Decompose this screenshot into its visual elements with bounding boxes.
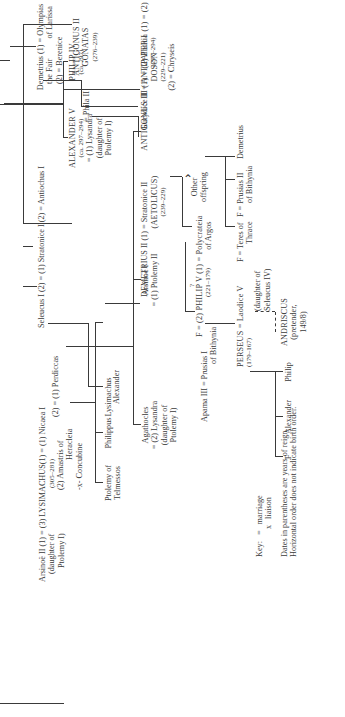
trunk-cassander-line [0, 104, 63, 105]
legend-liaison: liaison [264, 497, 273, 519]
name: F = (2) PHILIP V (1) = Polycrateia [195, 187, 204, 337]
connector [133, 132, 134, 280]
connector [0, 60, 10, 61]
dates: 149/8) [299, 292, 308, 352]
marriage-symbol: = [255, 530, 264, 535]
connector [170, 176, 182, 177]
connector [88, 323, 89, 360]
node-seleucus-stratonice-antiochus: Seleucus I (2) = (1) Stratonice I (2) = … [37, 107, 46, 387]
reign-dates: (276–239) [91, 2, 99, 92]
name: ANDRISCUS [280, 292, 289, 352]
connector [182, 226, 192, 227]
name: PHILIP IV [68, 32, 77, 92]
dashed-connector [275, 312, 276, 332]
epithet: (AETOLICUS) [150, 167, 159, 237]
connector [185, 311, 195, 312]
parent-note: (daughter of [160, 385, 169, 465]
name: Agathocles [141, 385, 150, 465]
legend-note-dates: Dates in parentheses are years of reign. [280, 357, 289, 557]
name: Arsinoë II (1) = (3) LYSIMACHUS(1) = (1)… [38, 382, 47, 582]
connector [23, 24, 72, 25]
node-andriscus: ANDRISCUS (pretender, 149/8) [280, 292, 308, 352]
connector [95, 482, 103, 483]
origin: Telmessos [113, 453, 122, 513]
connector [88, 357, 89, 387]
perdiccas-marriage: (2) = (1) Perdiccas [51, 356, 60, 417]
family-tree-diagram: Demetrius (1) = Olympias the Fair of Lar… [0, 0, 345, 717]
legend-label: Key: [255, 541, 264, 557]
spouse-phila-ii-label: = Phila II [82, 91, 91, 122]
node-apama: Apama III = Prusias I of Bithynia [200, 322, 219, 422]
spouse: = (2) Lysandra [150, 385, 159, 465]
connector [133, 424, 141, 425]
spouse: = (1) Ptolemy II [150, 240, 159, 320]
connector [133, 280, 134, 425]
node-demetrius-the-fair: Demetrius (1) = Olympias the Fair of Lar… [36, 2, 64, 92]
connector [0, 703, 64, 704]
name: Demetrius (1) = Olympias [36, 2, 45, 92]
node-teres: F = Teres of Thrace [236, 202, 255, 262]
connector [138, 116, 139, 137]
connector [225, 157, 226, 227]
connector [70, 402, 95, 403]
node-ptolemy-telmessos: Ptolemy of Telmessos [104, 453, 123, 513]
name: Apama III = Prusias I [200, 322, 209, 422]
connector [66, 346, 133, 347]
node-alexander-son: Alexander [112, 361, 121, 413]
node-antigonus-iii-name: ANTIGONUS III (1) = (2) Phthia (1) = (2) [140, 2, 149, 162]
reign-dates: (ca. 297) [77, 32, 85, 92]
node-demetrius-son: Demetrius [236, 122, 245, 162]
liaison-concubine: -x- Concubine [75, 370, 84, 490]
spouse-origin: Heracleia [65, 370, 74, 490]
name: PERSEUS = Laodice V [236, 257, 245, 367]
node-philip-v: F = (2) PHILIP V (1) = Polycrateia (221–… [195, 187, 214, 337]
connector [48, 323, 88, 324]
reign-dates: (239–229) [159, 167, 167, 237]
connector [105, 303, 140, 304]
connector [95, 432, 103, 433]
connector [205, 323, 235, 324]
origin: of Bithynia [209, 322, 218, 422]
spouse-chryseis: (2) = Chryseis [167, 22, 176, 112]
legend-block: Key: = marriage x liaison Dates in paren… [255, 357, 299, 557]
dashed-connector [255, 311, 275, 312]
connector [88, 386, 103, 387]
reign-dates: (221–179) [204, 268, 213, 297]
node-perseus: PERSEUS = Laodice V (179–167) (daughter … [236, 257, 272, 367]
origin: Thrace [245, 202, 254, 262]
parent-note: Seleucus IV) [263, 257, 272, 367]
bar-cassander-children [63, 62, 64, 138]
note: (pretender, [289, 292, 298, 352]
parent-note: Ptolemy I) [104, 100, 113, 176]
connector [92, 116, 138, 117]
connector [23, 223, 72, 224]
legend-marriage: marriage [255, 495, 264, 524]
connector [95, 322, 103, 323]
reign-dates: (179–167) [245, 257, 253, 367]
node-agathocles: Agathocles = (2) Lysandra (daughter of P… [141, 385, 179, 465]
name: F = Teres of [236, 202, 245, 262]
name: Ptolemy of [104, 453, 113, 513]
node-antigonus-iii-detail: DOSON (229–221) (2) = Chryseis [150, 22, 177, 112]
origin: of Larissa [45, 6, 54, 39]
node-philip-iv: PHILIP IV (ca. 297) [68, 32, 85, 92]
connector [23, 25, 24, 224]
connector [225, 226, 235, 227]
name: ALEXANDER V [68, 100, 77, 176]
legend-note-order: Horizontal order does not indicate birth… [289, 357, 298, 557]
question-mark: ? [188, 284, 196, 287]
connector [225, 179, 235, 180]
liaison-symbol: x [264, 525, 273, 529]
connector [185, 242, 186, 312]
connector [205, 156, 225, 157]
connector [95, 323, 96, 483]
parent-note: Ptolemy I) [169, 385, 178, 465]
origin: of Argos [204, 222, 213, 250]
parent-note: (daughter of [95, 100, 104, 176]
epithet: DOSON [150, 22, 159, 112]
name: ANTIGONUS III (1) = (2) Phthia (1) = (2) [140, 2, 149, 162]
node-demetrius-ii-detail: (AETOLICUS) (239–229) [150, 167, 167, 237]
reign-dates: (229–221) [159, 22, 167, 112]
connector [23, 286, 37, 287]
connector [225, 156, 235, 157]
